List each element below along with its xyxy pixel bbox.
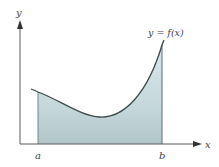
x-axis-arrow-icon bbox=[193, 141, 202, 147]
x-axis-label: x bbox=[205, 139, 211, 150]
lower-bound-label: a bbox=[35, 150, 41, 161]
shaded-area bbox=[38, 45, 162, 144]
upper-bound-label: b bbox=[159, 150, 165, 161]
curve-label: y = f(x) bbox=[147, 27, 184, 38]
y-axis-label: y bbox=[15, 7, 22, 18]
y-axis-arrow-icon bbox=[17, 20, 23, 29]
area-under-curve-diagram: y x y = f(x) a b bbox=[0, 0, 219, 167]
